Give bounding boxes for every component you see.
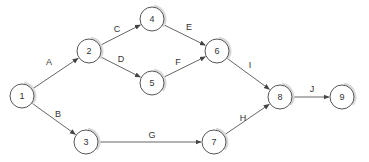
node-6: 6 bbox=[205, 38, 230, 63]
node-label: 7 bbox=[211, 137, 216, 147]
edge-label: C bbox=[114, 24, 121, 34]
edge-label: D bbox=[118, 54, 125, 64]
node-label: 5 bbox=[149, 78, 154, 88]
edge-label: H bbox=[240, 113, 247, 123]
network-diagram: ABCDEFGHIJ 123456789 bbox=[0, 0, 369, 162]
node-2: 2 bbox=[77, 38, 102, 63]
edge-g: G bbox=[98, 130, 201, 142]
edge-e: E bbox=[163, 22, 206, 45]
edge-j: J bbox=[292, 84, 329, 97]
node-7: 7 bbox=[202, 129, 227, 154]
arrow-icon bbox=[32, 58, 78, 89]
node-label: 1 bbox=[19, 91, 24, 101]
node-label: 9 bbox=[339, 92, 344, 102]
node-3: 3 bbox=[74, 129, 99, 154]
arrow-icon bbox=[163, 24, 206, 45]
edge-a: A bbox=[32, 57, 78, 89]
edges: ABCDEFGHIJ bbox=[32, 22, 329, 142]
edge-i: I bbox=[227, 58, 270, 89]
node-label: 4 bbox=[149, 14, 154, 24]
node-label: 8 bbox=[277, 92, 282, 102]
node-4: 4 bbox=[140, 6, 165, 31]
edge-c: C bbox=[100, 24, 141, 46]
edge-label: A bbox=[46, 57, 52, 67]
edge-f: F bbox=[163, 57, 206, 78]
edge-label: E bbox=[186, 22, 192, 32]
edge-label: B bbox=[55, 109, 61, 119]
edge-label: J bbox=[310, 84, 315, 94]
node-9: 9 bbox=[330, 84, 355, 109]
node-label: 6 bbox=[214, 46, 219, 56]
node-5: 5 bbox=[140, 70, 165, 95]
node-label: 3 bbox=[83, 137, 88, 147]
node-1: 1 bbox=[10, 83, 35, 108]
edge-h: H bbox=[224, 104, 269, 135]
edge-b: B bbox=[32, 103, 76, 134]
arrow-icon bbox=[224, 104, 269, 135]
edge-d: D bbox=[100, 54, 141, 77]
edge-label: I bbox=[249, 60, 252, 70]
node-8: 8 bbox=[268, 84, 293, 109]
edge-label: G bbox=[148, 130, 155, 140]
arrow-icon bbox=[163, 57, 206, 78]
nodes: 123456789 bbox=[10, 6, 355, 154]
node-label: 2 bbox=[86, 46, 91, 56]
arrow-icon bbox=[32, 103, 76, 134]
edge-label: F bbox=[175, 57, 181, 67]
